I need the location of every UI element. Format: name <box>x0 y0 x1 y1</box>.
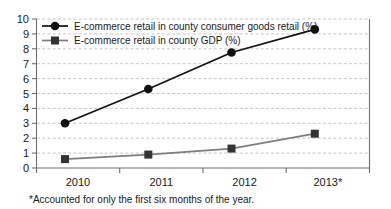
y-tick-label: 6 <box>23 73 29 85</box>
data-point-marker <box>144 85 153 94</box>
x-tick-label: 2010 <box>66 176 90 188</box>
data-point-marker <box>228 145 236 153</box>
legend-label: E-commerce retail in county consumer goo… <box>74 21 317 32</box>
y-tick-label: 10 <box>17 13 29 25</box>
data-point-marker <box>61 119 70 128</box>
y-tick-label: 1 <box>23 147 29 159</box>
circle-marker-icon <box>51 22 60 31</box>
data-point-marker <box>227 48 236 57</box>
data-point-marker <box>61 155 69 163</box>
y-tick-label: 8 <box>23 43 29 55</box>
data-point-marker <box>311 130 319 138</box>
y-tick-label: 4 <box>23 102 29 114</box>
y-tick-label: 3 <box>23 117 29 129</box>
x-tick-label: 2011 <box>149 176 173 188</box>
legend-label: E-commerce retail in county GDP (%) <box>74 35 241 46</box>
y-tick-label: 2 <box>23 132 29 144</box>
y-tick-label: 9 <box>23 28 29 40</box>
y-tick-label: 0 <box>23 162 29 174</box>
line-chart: 10 9 8 7 6 5 4 3 2 1 0 2010 2011 2012 20… <box>0 0 391 209</box>
square-marker-icon <box>51 37 59 45</box>
x-tick-label: 2012 <box>232 176 256 188</box>
chart-canvas: 10 9 8 7 6 5 4 3 2 1 0 2010 2011 2012 20… <box>0 0 391 209</box>
x-tick-label: 2013* <box>313 176 342 188</box>
y-tick-label: 7 <box>23 58 29 70</box>
legend-item-consumer-goods: E-commerce retail in county consumer goo… <box>42 21 317 32</box>
data-point-marker <box>144 151 152 159</box>
y-tick-label: 5 <box>23 88 29 100</box>
chart-footnote: *Accounted for only the first six months… <box>29 194 254 205</box>
